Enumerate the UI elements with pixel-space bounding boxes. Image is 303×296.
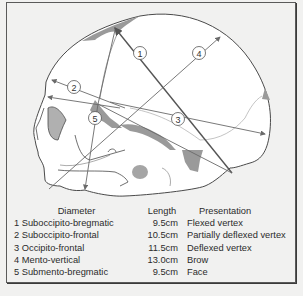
svg-text:2: 2	[71, 83, 76, 93]
table-row: 1 Suboccipito-bregmatic 9.5cm Flexed ver…	[14, 217, 294, 229]
svg-text:3: 3	[175, 115, 180, 125]
table-row: 4 Mento-vertical 13.0cm Brow	[14, 254, 294, 266]
header-presentation: Presentation	[187, 205, 294, 217]
diameter-label-4: 4	[193, 47, 206, 60]
table-header: Diameter Length Presentation	[14, 205, 294, 217]
header-length: Length	[129, 205, 187, 217]
svg-text:5: 5	[92, 114, 97, 124]
header-diameter: Diameter	[14, 205, 129, 217]
diameter-label-1: 1	[134, 47, 147, 60]
diameter-label-2: 2	[68, 81, 81, 94]
table-row: 5 Submento-bregmatic 9.5cm Face	[14, 266, 294, 278]
svg-text:4: 4	[196, 49, 201, 59]
table-row: 2 Suboccipito-frontal 10.5cm Partially d…	[14, 229, 294, 241]
skull-outline	[34, 14, 271, 196]
diameter-label-3: 3	[172, 113, 185, 126]
svg-text:1: 1	[137, 49, 142, 59]
table-row: 3 Occipito-frontal 11.5cm Deflexed verte…	[14, 242, 294, 254]
diameter-label-5: 5	[89, 112, 102, 125]
diameter-table: Diameter Length Presentation 1 Suboccipi…	[14, 205, 294, 278]
